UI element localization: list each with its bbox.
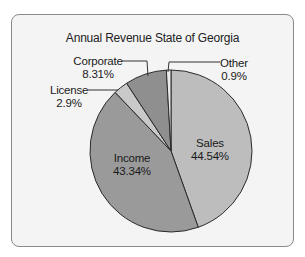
label-other-name: Other (220, 57, 248, 70)
label-sales-value: 44.54% (190, 150, 230, 163)
label-other: Other 0.9% (220, 57, 248, 83)
leader-line-corporate (122, 61, 148, 76)
label-income-name: Income (112, 152, 152, 165)
label-license-name: License (50, 84, 88, 97)
label-corporate: Corporate 8.31% (73, 55, 123, 81)
pie-chart (0, 0, 305, 257)
label-corporate-value: 8.31% (73, 68, 123, 81)
label-sales-name: Sales (190, 137, 230, 150)
label-income: Income 43.34% (112, 152, 152, 178)
label-other-value: 0.9% (220, 70, 248, 83)
label-license-value: 2.9% (50, 97, 88, 110)
label-license: License 2.9% (50, 84, 88, 110)
label-corporate-name: Corporate (73, 55, 123, 68)
label-income-value: 43.34% (112, 165, 152, 178)
label-sales: Sales 44.54% (190, 137, 230, 163)
